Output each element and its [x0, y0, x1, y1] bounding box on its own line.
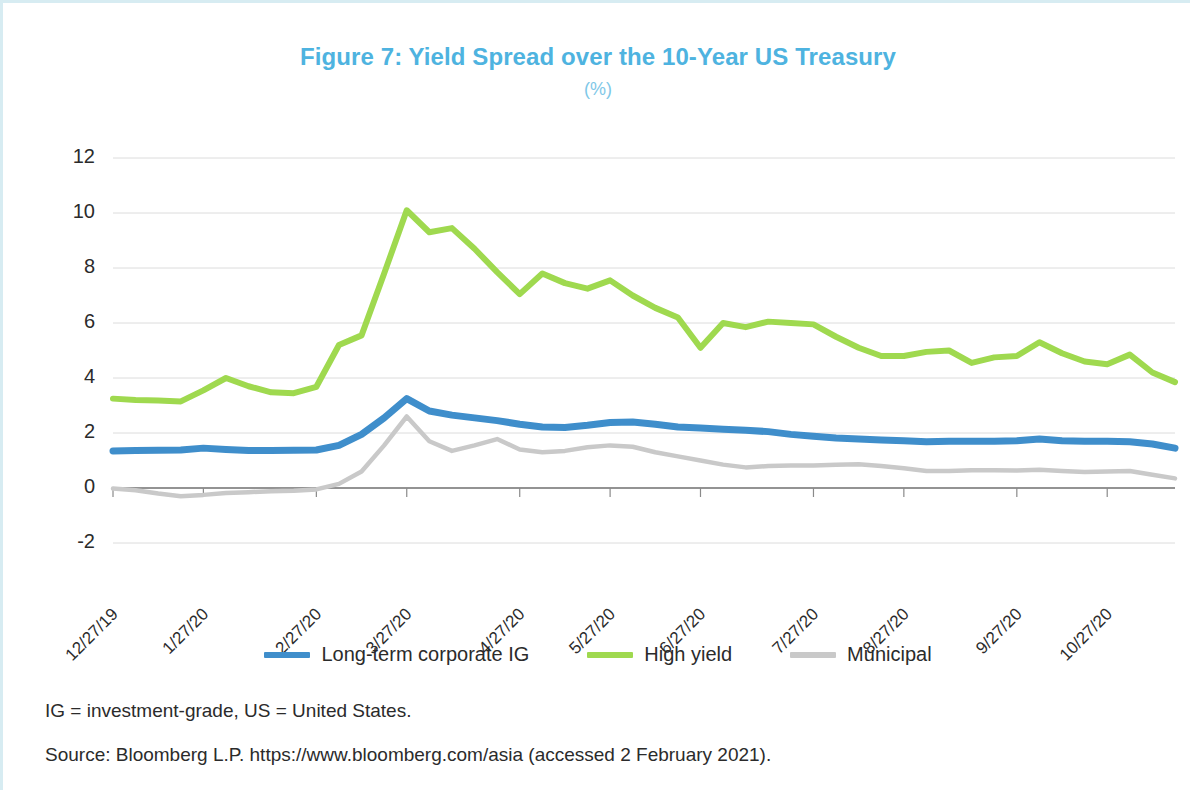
gridlines-group	[113, 158, 1175, 543]
y-axis-tick-label: 0	[84, 475, 95, 497]
y-axis-tick-label: 10	[73, 200, 95, 222]
figure-page: Figure 7: Yield Spread over the 10-Year …	[0, 0, 1190, 790]
series-line-long-term-corporate-ig	[113, 399, 1175, 451]
y-axis-tick-label: 6	[84, 310, 95, 332]
y-axis-tick-label: 2	[84, 420, 95, 442]
source-note: Source: Bloomberg L.P. https://www.bloom…	[45, 744, 1145, 766]
chart-container: 121086420-2 12/27/191/27/202/27/203/27/2…	[3, 3, 1190, 663]
y-axis-labels-group: 121086420-2	[73, 145, 95, 552]
legend-item[interactable]: High yield	[587, 643, 732, 666]
legend-item[interactable]: Long-term corporate IG	[264, 643, 529, 666]
y-axis-tick-label: 4	[84, 365, 95, 387]
legend-swatch-icon	[587, 652, 633, 658]
series-line-high-yield	[113, 210, 1175, 401]
legend-item-label: Long-term corporate IG	[321, 643, 529, 666]
legend-item-label: High yield	[644, 643, 732, 666]
legend-item-label: Municipal	[847, 643, 931, 666]
legend-swatch-icon	[790, 652, 836, 658]
series-line-municipal	[113, 417, 1175, 497]
legend-item[interactable]: Municipal	[790, 643, 931, 666]
y-axis-tick-label: -2	[77, 530, 95, 552]
line-chart: 121086420-2 12/27/191/27/202/27/203/27/2…	[3, 3, 1190, 663]
figure-notes: IG = investment-grade, US = United State…	[45, 700, 1145, 788]
y-axis-tick-label: 8	[84, 255, 95, 277]
legend-swatch-icon	[264, 652, 310, 658]
chart-legend: Long-term corporate IGHigh yieldMunicipa…	[3, 643, 1190, 666]
series-lines-group	[113, 210, 1175, 496]
abbreviations-note: IG = investment-grade, US = United State…	[45, 700, 1145, 722]
y-axis-tick-label: 12	[73, 145, 95, 167]
